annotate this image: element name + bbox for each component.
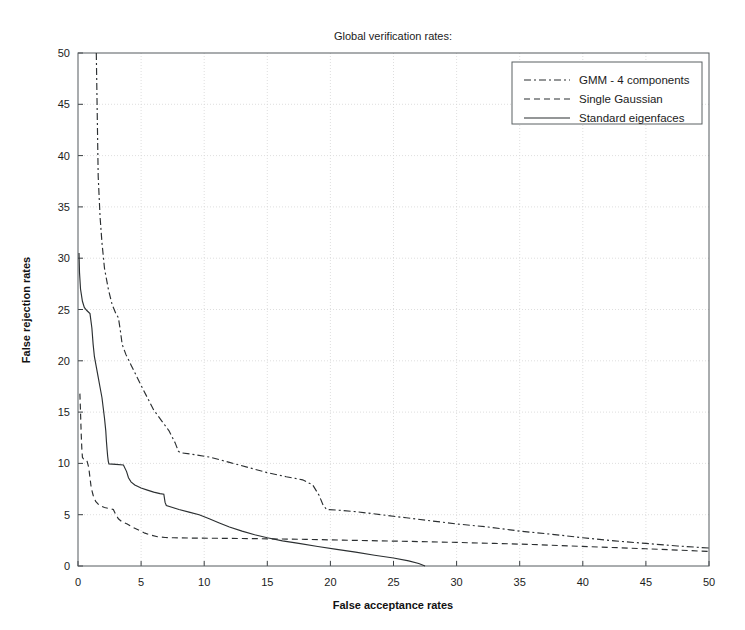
- y-tick-label: 30: [58, 252, 70, 264]
- x-tick-label: 15: [261, 576, 273, 588]
- x-tick-label: 25: [387, 576, 399, 588]
- tick-label-layer: 0510152025303540455005101520253035404550: [58, 47, 715, 588]
- x-tick-label: 50: [703, 576, 715, 588]
- y-tick-label: 10: [58, 457, 70, 469]
- x-axis-label: False acceptance rates: [333, 599, 453, 611]
- series-layer: [79, 53, 709, 566]
- y-tick-label: 50: [58, 47, 70, 59]
- series-line-1: [80, 394, 709, 552]
- x-tick-label: 5: [138, 576, 144, 588]
- legend: GMM - 4 componentsSingle GaussianStandar…: [512, 62, 702, 124]
- global-verification-rates-chart: 0510152025303540455005101520253035404550…: [0, 0, 745, 630]
- series-line-2: [79, 253, 425, 566]
- x-tick-label: 40: [577, 576, 589, 588]
- y-tick-label: 25: [58, 304, 70, 316]
- y-tick-label: 45: [58, 98, 70, 110]
- y-tick-label: 15: [58, 406, 70, 418]
- y-tick-label: 35: [58, 201, 70, 213]
- y-tick-label: 20: [58, 355, 70, 367]
- x-tick-label: 10: [198, 576, 210, 588]
- chart-page: 0510152025303540455005101520253035404550…: [0, 0, 745, 630]
- x-tick-label: 0: [75, 576, 81, 588]
- y-axis-label: False rejection rates: [20, 257, 32, 363]
- x-tick-label: 20: [324, 576, 336, 588]
- y-tick-label: 40: [58, 150, 70, 162]
- x-tick-label: 35: [514, 576, 526, 588]
- legend-label-0: GMM - 4 components: [579, 74, 690, 86]
- legend-label-2: Standard eigenfaces: [579, 112, 685, 124]
- y-tick-label: 0: [64, 560, 70, 572]
- x-tick-label: 45: [640, 576, 652, 588]
- grid-layer: [78, 53, 709, 566]
- legend-label-1: Single Gaussian: [579, 93, 663, 105]
- page-title: Global verification rates:: [334, 30, 452, 42]
- series-line-0: [96, 53, 709, 548]
- y-tick-label: 5: [64, 509, 70, 521]
- x-tick-label: 30: [450, 576, 462, 588]
